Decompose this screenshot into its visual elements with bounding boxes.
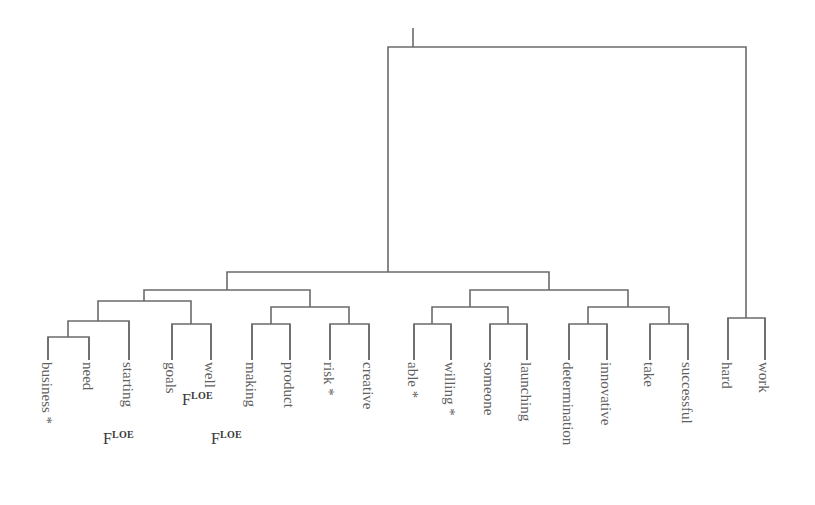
leaf-label-text: starting xyxy=(120,362,136,407)
merge-m-root xyxy=(388,47,746,318)
leaf-significance-star: * xyxy=(39,413,55,424)
leaf-label-text: goals xyxy=(163,362,179,394)
merge-m-clusterA xyxy=(144,290,310,307)
dendrogram-figure: business *needstartinggoalswellmakingpro… xyxy=(0,0,815,505)
leaf-label-text: risk xyxy=(321,362,337,385)
leaf-label-able: able * xyxy=(405,362,420,398)
leaf-label-someone: someone xyxy=(481,362,496,415)
leaf-label-launching: launching xyxy=(518,362,533,421)
leaf-label-business: business * xyxy=(39,362,54,424)
leaf-label-product: product xyxy=(281,362,296,408)
merge-m-business-need xyxy=(48,337,89,360)
annotation-base: F xyxy=(182,391,191,408)
dendrogram-links xyxy=(48,47,765,360)
leaf-label-text: creative xyxy=(360,362,376,409)
leaf-label-hard: hard xyxy=(719,362,734,389)
leaf-label-creative: creative xyxy=(360,362,375,409)
leaf-label-text: need xyxy=(80,362,96,390)
leaf-label-text: take xyxy=(641,362,657,387)
leaf-label-text: business xyxy=(39,362,55,413)
annotation-floe-starting: FLOE xyxy=(103,430,134,447)
leaf-label-willing: willing * xyxy=(442,362,457,416)
leaf-label-text: well xyxy=(202,362,218,388)
merge-m-able-willing xyxy=(414,324,451,360)
leaf-label-text: work xyxy=(756,362,772,393)
merge-m-main xyxy=(227,272,549,290)
leaf-significance-star: * xyxy=(321,385,337,396)
merge-m-making-risk-group xyxy=(271,307,349,324)
annotation-superscript: LOE xyxy=(220,429,242,440)
merge-m-risk-creative xyxy=(330,324,369,360)
leaf-label-text: determination xyxy=(560,362,576,445)
leaf-significance-star: * xyxy=(405,387,421,398)
leaf-label-making: making xyxy=(243,362,258,407)
merge-m-hard-work xyxy=(728,318,765,360)
leaf-label-need: need xyxy=(80,362,95,390)
leaf-label-text: successful xyxy=(679,362,695,424)
leaf-label-text: product xyxy=(281,362,297,408)
leaf-label-innovative: innovative xyxy=(598,362,613,425)
leaf-label-risk: risk * xyxy=(321,362,336,396)
leaf-label-text: someone xyxy=(481,362,497,415)
leaf-label-text: launching xyxy=(518,362,534,421)
leaf-label-text: able xyxy=(405,362,421,387)
annotation-superscript: LOE xyxy=(112,429,134,440)
merge-m-determination-innovative xyxy=(569,324,607,360)
merge-m-determination-take-group xyxy=(588,307,669,324)
leaf-label-successful: successful xyxy=(679,362,694,424)
leaf-label-starting: starting xyxy=(120,362,135,407)
merge-m-goals-well xyxy=(172,324,211,360)
leaf-significance-star: * xyxy=(442,405,458,416)
merge-m-businessneed-starting xyxy=(68,321,129,360)
leaf-label-text: hard xyxy=(719,362,735,389)
leaf-label-determination: determination xyxy=(560,362,575,445)
leaf-label-text: making xyxy=(243,362,259,407)
annotation-superscript: LOE xyxy=(191,390,213,401)
annotation-base: F xyxy=(211,430,220,447)
leaf-label-goals: goals xyxy=(163,362,178,394)
leaf-label-text: willing xyxy=(442,362,458,405)
annotation-floe-well: FLOE xyxy=(182,391,213,408)
annotation-floe-making: FLOE xyxy=(211,430,242,447)
merge-m-take-successful xyxy=(650,324,688,360)
merge-m-someone-launching xyxy=(490,324,527,360)
merge-m-making-product xyxy=(252,324,290,360)
annotation-base: F xyxy=(103,430,112,447)
leaf-label-text: innovative xyxy=(598,362,614,425)
merge-m-able-someone-group xyxy=(432,307,508,324)
merge-m-clusterB xyxy=(470,290,628,307)
leaf-label-well: well xyxy=(202,362,217,388)
leaf-label-work: work xyxy=(756,362,771,393)
leaf-label-take: take xyxy=(641,362,656,387)
